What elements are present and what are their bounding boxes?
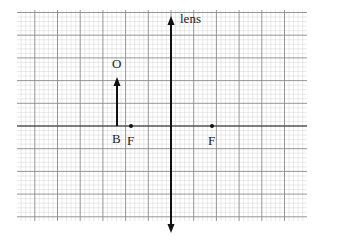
object-label: O — [112, 57, 121, 70]
focal-point-right — [210, 124, 214, 128]
object-arrow — [114, 77, 121, 126]
lens-top-arrowhead-icon — [168, 16, 175, 25]
ray-diagram — [0, 0, 342, 243]
object-base-label: B — [112, 132, 121, 145]
lens-label: lens — [180, 12, 201, 25]
focal-point-left-label: F — [127, 134, 134, 147]
focal-point-right-label: F — [208, 134, 215, 147]
object-arrowhead-icon — [114, 77, 121, 86]
grid-minor-lines — [17, 10, 307, 221]
focal-point-left — [129, 124, 133, 128]
lens-bottom-arrowhead-icon — [168, 224, 175, 233]
lens — [168, 16, 175, 233]
